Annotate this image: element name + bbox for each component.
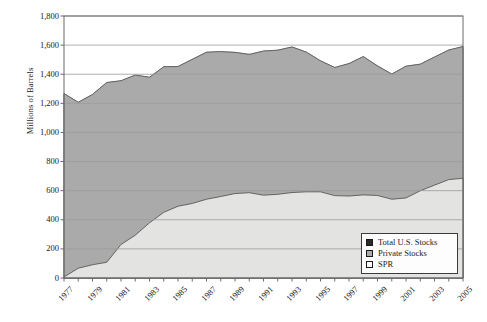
stacked-area-chart: Millions of Barrels 02004006008001,0001,… [0, 0, 487, 322]
legend-item: SPR [366, 259, 452, 270]
legend-swatch-icon [366, 250, 373, 257]
legend-item: Total U.S. Stocks [366, 237, 452, 248]
chart-legend: Total U.S. StocksPrivate StocksSPR [361, 233, 458, 274]
legend-swatch-icon [366, 261, 373, 268]
legend-label: Total U.S. Stocks [378, 238, 437, 247]
legend-label: Private Stocks [378, 249, 427, 258]
legend-swatch-icon [366, 239, 373, 246]
legend-item: Private Stocks [366, 248, 452, 259]
legend-label: SPR [378, 260, 393, 269]
